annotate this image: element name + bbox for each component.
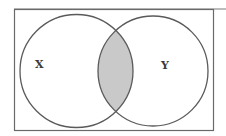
venn-diagram: X Y xyxy=(0,0,226,136)
set-y-label: Y xyxy=(160,59,169,72)
set-x-label: X xyxy=(35,58,44,71)
